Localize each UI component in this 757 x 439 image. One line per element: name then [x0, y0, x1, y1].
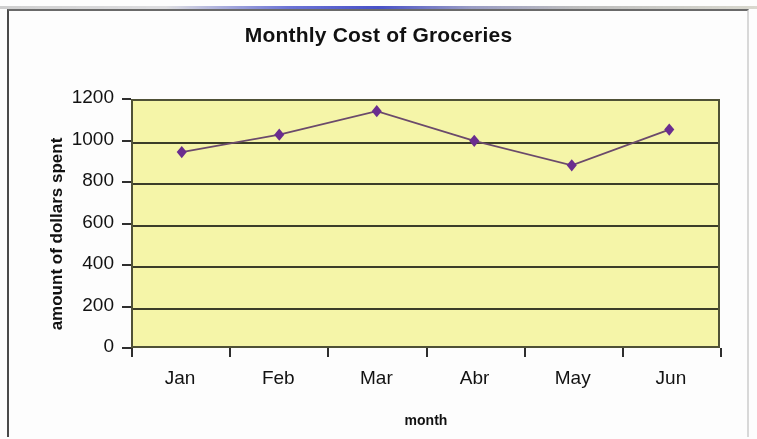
x-tick-label: Jan: [130, 367, 230, 389]
data-series-layer: [133, 101, 718, 346]
x-tick-mark: [327, 348, 329, 357]
x-tick-mark: [622, 348, 624, 357]
y-tick-mark: [122, 223, 131, 225]
y-tick-mark: [122, 98, 131, 100]
data-point-marker: [177, 146, 187, 158]
y-tick-mark: [122, 264, 131, 266]
y-tick-label: 1000: [46, 128, 114, 150]
x-tick-label: Abr: [425, 367, 525, 389]
x-tick-label: Jun: [621, 367, 721, 389]
chart-title: Monthly Cost of Groceries: [0, 23, 757, 47]
y-tick-label: 200: [46, 294, 114, 316]
series-line: [182, 111, 669, 165]
line-chart: Monthly Cost of Groceries amount of doll…: [0, 0, 757, 439]
data-point-marker: [372, 105, 382, 117]
data-point-marker: [274, 129, 284, 141]
x-tick-mark: [524, 348, 526, 357]
x-axis-label: month: [131, 412, 721, 428]
plot-area: [131, 99, 720, 348]
x-tick-mark: [131, 348, 133, 357]
y-tick-label: 600: [46, 211, 114, 233]
y-tick-label: 1200: [46, 86, 114, 108]
y-tick-label: 800: [46, 169, 114, 191]
y-tick-label: 0: [46, 335, 114, 357]
y-tick-mark: [122, 140, 131, 142]
x-tick-label: Mar: [326, 367, 426, 389]
y-tick-mark: [122, 181, 131, 183]
x-tick-mark: [720, 348, 722, 357]
x-tick-mark: [426, 348, 428, 357]
data-point-marker: [469, 135, 479, 147]
x-tick-label: May: [523, 367, 623, 389]
y-tick-label: 400: [46, 252, 114, 274]
y-tick-mark: [122, 347, 131, 349]
data-point-marker: [567, 159, 577, 171]
data-point-marker: [664, 123, 674, 135]
x-tick-mark: [229, 348, 231, 357]
y-tick-mark: [122, 306, 131, 308]
x-tick-label: Feb: [228, 367, 328, 389]
